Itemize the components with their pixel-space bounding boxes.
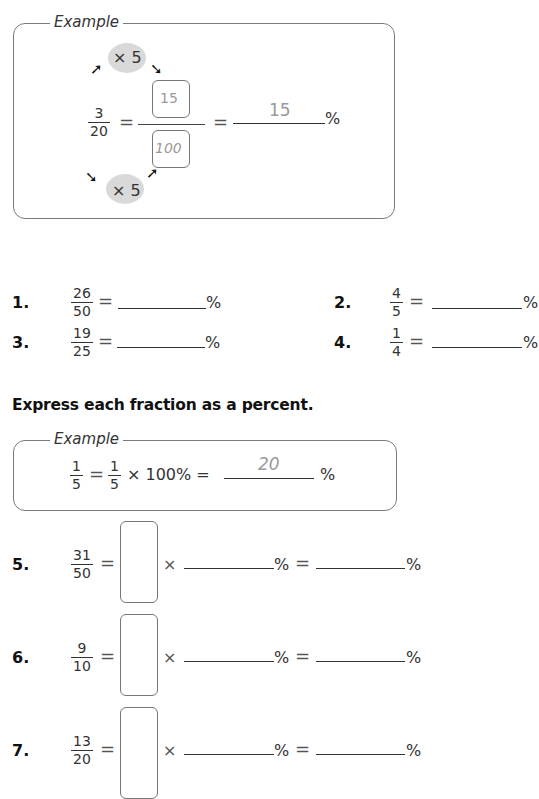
- exercise-7-fraction: 13 20: [71, 734, 93, 767]
- example2-fraction2: 1 5: [108, 459, 121, 492]
- equals-sign: =: [98, 292, 113, 310]
- exercise-6-label: 6.: [12, 649, 29, 667]
- percent-sign: %: [206, 294, 221, 312]
- percent-sign: %: [406, 649, 421, 667]
- example2-legend: Example: [50, 430, 123, 448]
- exercise-4-answer-blank[interactable]: [432, 347, 522, 348]
- exercise-7-blank-1[interactable]: [184, 754, 274, 755]
- example2-fraction: 1 5: [70, 459, 83, 492]
- exercise-7-blank-2[interactable]: [316, 754, 405, 755]
- example1-legend: Example: [50, 13, 123, 31]
- arrow-se-icon: ➘: [150, 62, 163, 77]
- exercise-2-answer-blank[interactable]: [432, 308, 522, 309]
- percent-sign: %: [274, 649, 289, 667]
- denominator: 20: [88, 123, 110, 139]
- box-denominator-value: 100: [155, 139, 182, 157]
- times-100-percent: × 100% =: [127, 466, 210, 484]
- multiplier-bottom: × 5: [112, 182, 141, 200]
- exercise-3-label: 3.: [12, 334, 29, 352]
- exercise-3-answer-blank[interactable]: [117, 347, 205, 348]
- times-sign: ×: [163, 649, 176, 667]
- exercise-5-blank-2[interactable]: [316, 568, 405, 569]
- percent-sign: %: [406, 742, 421, 760]
- arrow-ne-icon: ➚: [90, 62, 103, 77]
- arrow-se-icon: ➘: [85, 170, 98, 185]
- percent-sign: %: [523, 294, 538, 312]
- exercise-4-fraction: 1 4: [390, 326, 403, 359]
- exercise-5-fraction: 31 50: [71, 548, 93, 581]
- equals-sign: =: [409, 332, 424, 350]
- equals-sign: =: [98, 332, 113, 350]
- percent-sign: %: [205, 334, 220, 352]
- exercise-3-fraction: 19 25: [71, 326, 93, 359]
- times-sign: ×: [163, 556, 176, 574]
- exercise-2-label: 2.: [334, 294, 351, 312]
- exercise-7-fraction-box[interactable]: [120, 707, 158, 799]
- multiplier-top: × 5: [113, 49, 142, 67]
- times-sign: ×: [163, 742, 176, 760]
- exercise-1-fraction: 26 50: [71, 286, 93, 319]
- exercise-5-label: 5.: [12, 556, 29, 574]
- arrow-ne-icon: ➚: [146, 166, 159, 181]
- answer-blank: [224, 478, 314, 479]
- equals-sign: =: [295, 647, 310, 665]
- section-heading: Express each fraction as a percent.: [12, 396, 313, 414]
- equals-sign: =: [295, 554, 310, 572]
- percent-sign: %: [320, 466, 335, 484]
- equals-sign: =: [89, 465, 104, 483]
- equals-sign: =: [409, 292, 424, 310]
- percent-sign: %: [523, 334, 538, 352]
- equals-sign: =: [100, 647, 115, 665]
- percent-sign: %: [325, 110, 340, 128]
- numerator: 3: [92, 106, 105, 122]
- equals-sign: =: [100, 740, 115, 758]
- percent-sign: %: [274, 556, 289, 574]
- exercise-6-fraction-box[interactable]: [120, 614, 158, 696]
- percent-sign: %: [274, 742, 289, 760]
- exercise-1-label: 1.: [12, 294, 29, 312]
- exercise-4-label: 4.: [334, 334, 351, 352]
- example1-fraction: 3 20: [88, 106, 110, 139]
- equals-sign: =: [100, 554, 115, 572]
- exercise-6-blank-1[interactable]: [184, 661, 274, 662]
- exercise-7-label: 7.: [12, 742, 29, 760]
- exercise-6-blank-2[interactable]: [316, 661, 405, 662]
- exercise-6-fraction: 9 10: [71, 641, 93, 674]
- equals-sign: =: [295, 740, 310, 758]
- exercise-5-fraction-box[interactable]: [120, 521, 158, 603]
- percent-sign: %: [406, 556, 421, 574]
- exercise-5-blank-1[interactable]: [184, 568, 274, 569]
- equals-sign: =: [213, 113, 228, 131]
- equals-sign: =: [119, 113, 134, 131]
- exercise-1-answer-blank[interactable]: [118, 308, 206, 309]
- example2-answer: 20: [258, 455, 280, 473]
- box-numerator-value: 15: [160, 89, 178, 107]
- answer-blank: [233, 123, 325, 124]
- example1-answer: 15: [269, 101, 291, 119]
- fraction-line: [138, 124, 205, 125]
- exercise-2-fraction: 4 5: [390, 286, 403, 319]
